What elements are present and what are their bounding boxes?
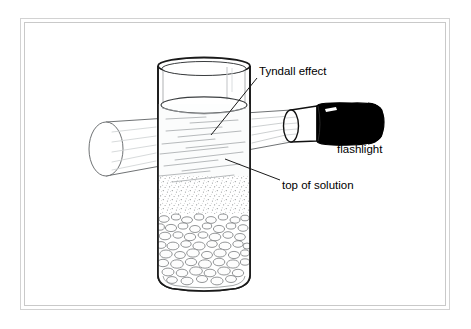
flashlight [284,103,385,145]
label-tyndall-effect: Tyndall effect [259,65,327,78]
diagram-artwork [0,0,471,329]
solution-surface [161,97,247,114]
solution-body [156,104,252,294]
figure-canvas: Tyndall effect flashlight top of solutio… [0,0,471,329]
sediment-pebbles [156,214,252,290]
label-top-of-solution: top of solution [282,179,354,192]
label-flashlight: flashlight [337,143,382,156]
